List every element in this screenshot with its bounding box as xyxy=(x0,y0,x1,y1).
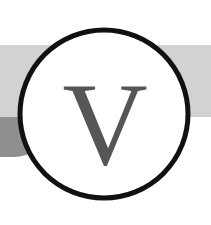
logo-vector: V xyxy=(0,0,211,225)
logo-canvas: V xyxy=(0,0,211,225)
monogram-letter: V xyxy=(62,59,147,190)
